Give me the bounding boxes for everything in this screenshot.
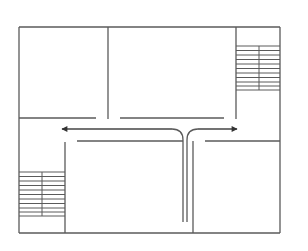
top-right-staircase: [236, 46, 280, 90]
vertical-corridor-left-line: [172, 129, 183, 222]
floor-plan-diagram: [0, 0, 308, 251]
bottom-left-staircase: [19, 172, 65, 216]
